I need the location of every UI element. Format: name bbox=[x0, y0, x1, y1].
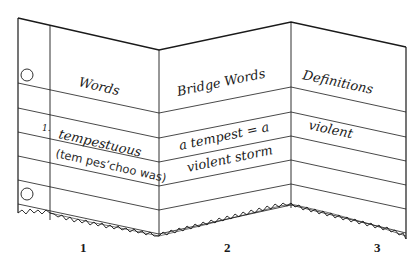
folded-notebook-paper-diagram: Words 1. tempestuous (tem pes’choo was) … bbox=[0, 0, 420, 268]
folded-paper-drawing: Words 1. tempestuous (tem pes’choo was) … bbox=[0, 0, 420, 268]
panel-number-2: 2 bbox=[224, 240, 231, 255]
entry-index: 1. bbox=[42, 123, 51, 133]
panel-1-surface bbox=[18, 18, 159, 236]
panel-number-3: 3 bbox=[374, 240, 381, 255]
panel-number-1: 1 bbox=[80, 240, 87, 255]
